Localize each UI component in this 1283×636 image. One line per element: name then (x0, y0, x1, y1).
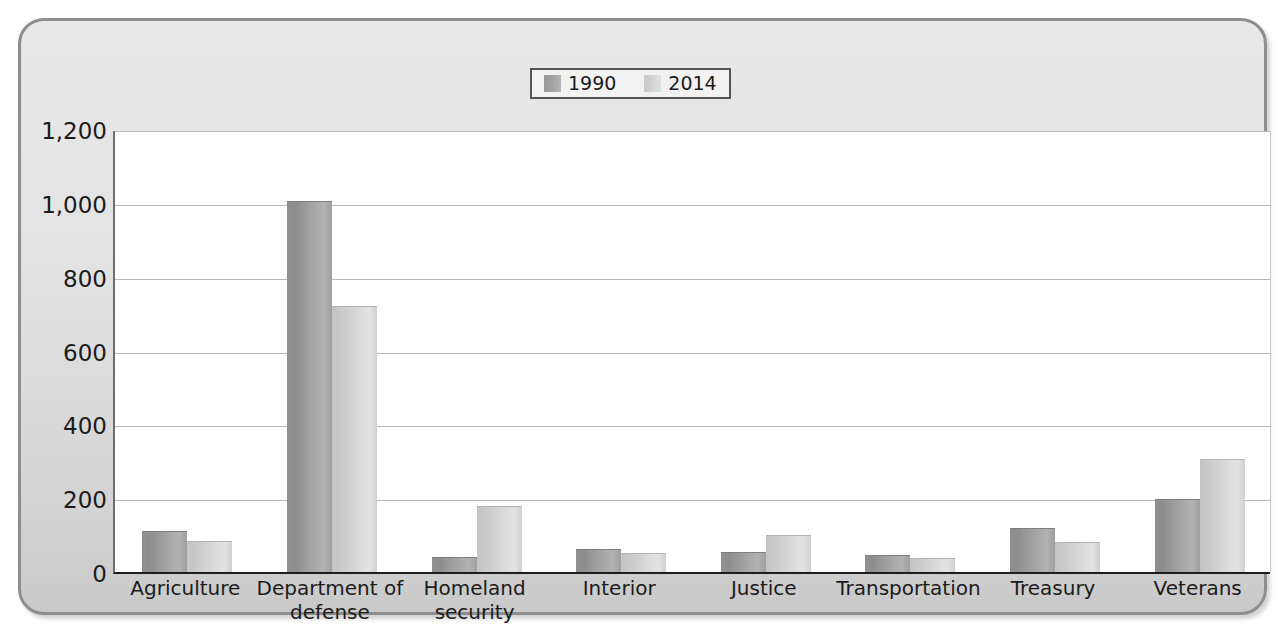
bar-1990[interactable] (576, 549, 621, 572)
bar-group (1127, 131, 1272, 572)
bar-2014[interactable] (477, 506, 522, 572)
bar-2014[interactable] (766, 535, 811, 572)
bar-2014[interactable] (1055, 542, 1100, 572)
bar-1990[interactable] (721, 552, 766, 572)
bar-group (983, 131, 1128, 572)
plot-area (113, 131, 1270, 574)
bar-1990[interactable] (1155, 499, 1200, 572)
bar-group (838, 131, 983, 572)
bar-2014[interactable] (1200, 459, 1245, 572)
y-axis: 02004006008001,0001,200 (21, 131, 107, 572)
bar-group (549, 131, 694, 572)
bar-2014[interactable] (910, 558, 955, 572)
bar-1990[interactable] (865, 555, 910, 572)
bar-group (404, 131, 549, 572)
legend-swatch-1990 (544, 75, 561, 92)
x-axis: AgricultureDepartment ofdefenseHomelands… (113, 577, 1268, 633)
y-axis-tick-label: 400 (23, 413, 107, 439)
bar-2014[interactable] (187, 541, 232, 572)
legend-label-1990: 1990 (568, 74, 616, 93)
bar-2014[interactable] (332, 306, 377, 572)
y-axis-tick-label: 200 (23, 487, 107, 513)
bar-1990[interactable] (287, 201, 332, 572)
legend-entry-1990: 1990 (544, 74, 616, 93)
bar-group (260, 131, 405, 572)
legend-entry-2014: 2014 (644, 74, 716, 93)
y-axis-tick-label: 1,000 (23, 192, 107, 218)
legend-label-2014: 2014 (668, 74, 716, 93)
bar-1990[interactable] (432, 557, 477, 572)
bar-1990[interactable] (142, 531, 187, 572)
bar-group (115, 131, 260, 572)
y-axis-tick-label: 1,200 (23, 118, 107, 144)
chart-legend: 1990 2014 (530, 68, 731, 99)
bar-2014[interactable] (621, 553, 666, 572)
chart-panel: 1990 2014 02004006008001,0001,200 Agricu… (18, 18, 1267, 615)
legend-swatch-2014 (644, 75, 661, 92)
y-axis-tick-label: 800 (23, 266, 107, 292)
bar-group (694, 131, 839, 572)
x-axis-tick-label: Veterans (1103, 577, 1283, 601)
y-axis-tick-label: 600 (23, 340, 107, 366)
bar-1990[interactable] (1010, 528, 1055, 572)
